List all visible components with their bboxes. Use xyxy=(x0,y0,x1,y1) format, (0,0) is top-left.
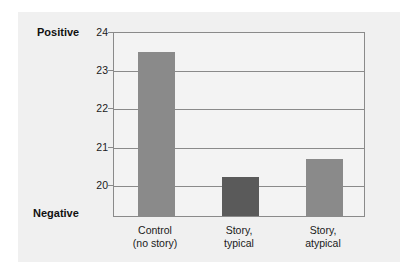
bar xyxy=(222,177,259,216)
y-axis-tick-labels: 2423222120 xyxy=(78,32,108,217)
axis-label-positive: Positive xyxy=(37,27,79,38)
x-axis-tick-label-line: Story, xyxy=(268,224,378,237)
bar xyxy=(306,159,343,216)
bar xyxy=(138,52,175,216)
plot-area xyxy=(113,32,365,217)
x-axis-tick-label: Story,atypical xyxy=(268,224,378,250)
y-axis-tick-label: 20 xyxy=(80,180,108,191)
y-axis-tick-label: 22 xyxy=(80,103,108,114)
y-axis-tick-label: 23 xyxy=(80,65,108,76)
x-axis-tick-label-line: atypical xyxy=(268,237,378,250)
y-axis-tick-label: 24 xyxy=(80,27,108,38)
chart-figure: Positive Negative 2423222120 Control(no … xyxy=(0,0,415,274)
axis-label-negative: Negative xyxy=(33,208,79,219)
y-axis-tick-label: 21 xyxy=(80,142,108,153)
